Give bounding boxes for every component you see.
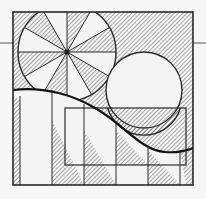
wheel-hub — [65, 50, 70, 55]
spoked-wheel — [18, 3, 116, 101]
geometric-diagram — [0, 0, 206, 199]
